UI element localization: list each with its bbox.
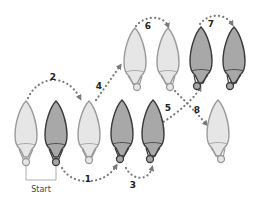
footprint-light-1 [15,101,37,166]
step-label-8: 8 [194,105,200,115]
footprint-light-3 [78,101,100,164]
arrow-step-7 [200,16,232,24]
step-label-6: 6 [145,21,151,31]
arrow-step-6 [136,18,168,26]
step-label-7: 7 [208,19,214,29]
footprint-dark-8 [190,27,212,90]
footprint-light-10 [207,100,229,163]
step-label-4: 4 [96,81,102,91]
footprint-dark-9 [223,27,245,90]
footprint-light-6 [124,28,146,91]
footprint-dark-4 [111,100,133,163]
footprint-dark-5 [142,100,164,163]
footprints [15,27,245,166]
footprint-light-7 [157,28,179,91]
footprint-dark-2 [45,101,67,166]
start-label: Start [31,185,51,194]
step-label-5: 5 [165,103,171,113]
arrow-step-3 [126,168,152,178]
footstep-diagram: Start [0,0,253,204]
arrow-step-2 [28,80,80,98]
step-label-1: 1 [85,174,91,184]
arrow-step-8 [172,88,206,124]
step-label-2: 2 [50,72,56,82]
step-label-3: 3 [130,180,136,190]
start-bracket: Start [26,166,56,194]
